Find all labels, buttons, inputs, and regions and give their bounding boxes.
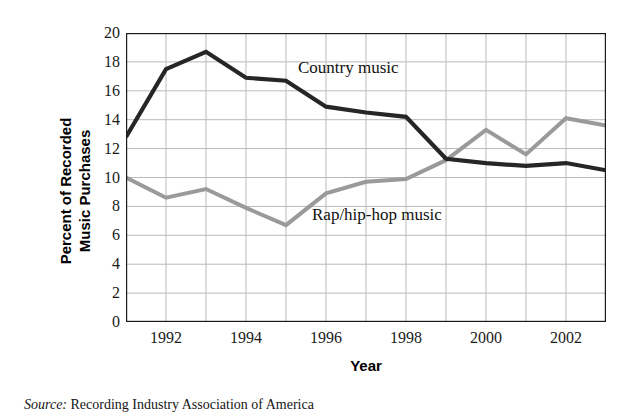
source-label: Source: — [24, 397, 67, 412]
y-axis-tick-labels: 02468101214161820 — [82, 0, 120, 419]
y-tick-label: 8 — [86, 198, 120, 214]
chart-figure: Percent of Recorded Music Purchases 0246… — [0, 0, 623, 419]
x-tick-label: 1996 — [291, 329, 361, 347]
y-tick-label: 14 — [86, 112, 120, 128]
y-tick-label: 20 — [86, 25, 120, 41]
y-tick-label: 2 — [86, 285, 120, 301]
x-tick-label: 1992 — [131, 329, 201, 347]
y-tick-label: 6 — [86, 227, 120, 243]
y-tick-label: 10 — [86, 170, 120, 186]
y-tick-label: 18 — [86, 54, 120, 70]
x-tick-label: 1998 — [371, 329, 441, 347]
y-tick-label: 16 — [86, 83, 120, 99]
y-tick-label: 12 — [86, 141, 120, 157]
x-axis-title: Year — [126, 357, 606, 375]
x-tick-label: 1994 — [211, 329, 281, 347]
series-label-country-music: Country music — [298, 58, 399, 77]
source-text: Recording Industry Association of Americ… — [71, 397, 314, 412]
x-tick-label: 2002 — [531, 329, 601, 347]
y-tick-label: 0 — [86, 314, 120, 330]
y-tick-label: 4 — [86, 256, 120, 272]
x-tick-label: 2000 — [451, 329, 521, 347]
x-axis-tick-labels: 199219941996199820002002 — [126, 329, 606, 355]
series-label-rap-hip-hop-music: Rap/hip-hop music — [312, 205, 442, 224]
source-note: Source: Recording Industry Association o… — [24, 396, 314, 413]
